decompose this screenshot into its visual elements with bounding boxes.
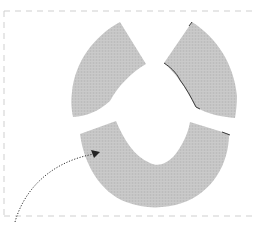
fabric-piece-top-right [164, 22, 237, 118]
diagram-canvas [0, 0, 257, 225]
fabric-piece-top-left [71, 22, 146, 117]
dotted-arrow [15, 154, 94, 222]
fabric-piece-bottom [80, 121, 229, 207]
